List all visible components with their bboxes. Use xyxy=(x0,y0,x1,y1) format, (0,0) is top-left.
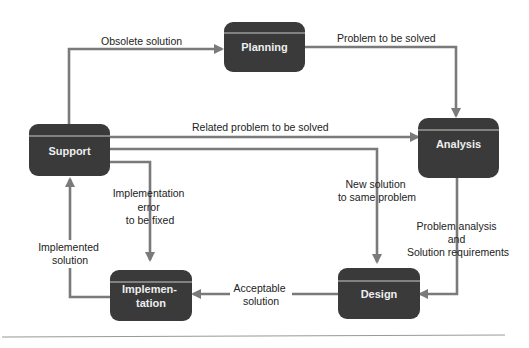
edge-implemented-solution: Implemented solution xyxy=(28,179,110,297)
edge-label-new-solution: New solution to same problem xyxy=(338,178,416,203)
edge-implementation-error: Implementation error to be fixed xyxy=(110,162,187,260)
node-label-planning: Planning xyxy=(241,41,287,53)
edge-problem-to-be-solved: Problem to be solved xyxy=(305,32,456,116)
edge-label-obsolete-solution: Obsolete solution xyxy=(101,35,182,47)
edge-analysis-to-design: Problem analysis and Solution requiremen… xyxy=(407,178,509,294)
edge-label-problem-to-be-solved: Problem to be solved xyxy=(337,32,436,44)
sdlc-cycle-diagram: Obsolete solution Problem to be solved R… xyxy=(0,0,529,348)
node-label-support: Support xyxy=(48,145,90,157)
edge-related-problem: Related problem to be solved xyxy=(110,121,418,137)
edge-acceptable-solution: Acceptable solution xyxy=(193,282,338,308)
edge-label-problem-analysis: Problem analysis and Solution requiremen… xyxy=(407,220,509,258)
node-design: Design xyxy=(338,268,420,319)
node-implementation: Implemen- tation xyxy=(110,270,192,321)
node-label-analysis: Analysis xyxy=(436,138,481,150)
node-analysis: Analysis xyxy=(418,118,499,178)
node-label-design: Design xyxy=(361,288,398,300)
edge-obsolete-solution: Obsolete solution xyxy=(69,35,222,127)
edge-label-related-problem: Related problem to be solved xyxy=(192,121,329,133)
node-planning: Planning xyxy=(224,22,305,72)
node-support: Support xyxy=(29,124,110,176)
footer-divider xyxy=(2,335,505,337)
edge-label-implementation-error: Implementation error to be fixed xyxy=(113,187,188,226)
